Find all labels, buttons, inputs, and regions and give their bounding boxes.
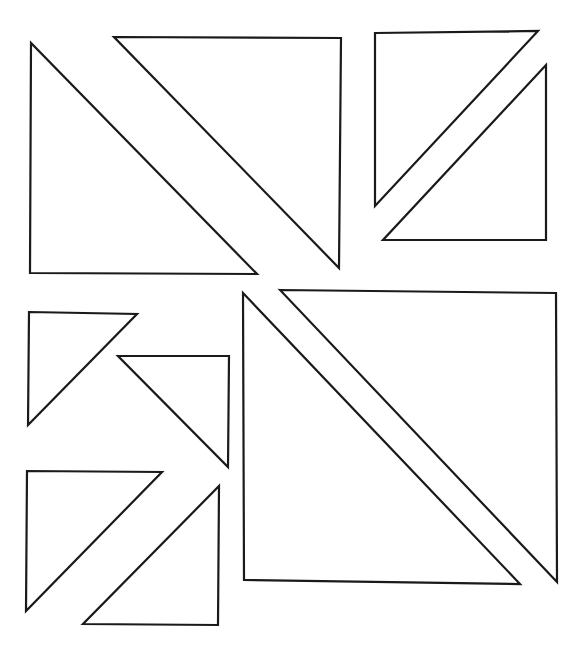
triangle-6-small-left-upper [118, 356, 229, 467]
triangle-5-small-left-upper [28, 312, 137, 425]
triangle-diagram [0, 0, 586, 657]
